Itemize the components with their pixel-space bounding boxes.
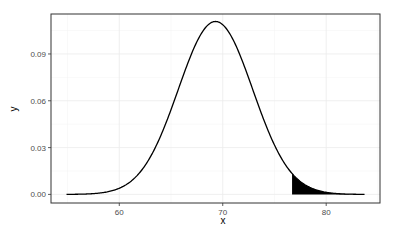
x-tick-label: 80 [322, 208, 331, 217]
panel-border [51, 14, 380, 203]
density-curve [67, 21, 365, 194]
x-axis-title: x [221, 215, 226, 226]
y-tick-label: 0.03 [30, 144, 46, 153]
y-tick-label: 0.09 [30, 50, 46, 59]
y-tick-label: 0.00 [30, 190, 46, 199]
chart: 607080 0.000.030.060.09 x y [0, 0, 399, 234]
y-tick-label: 0.06 [30, 97, 46, 106]
x-tick-label: 60 [115, 208, 124, 217]
gridlines [51, 14, 380, 203]
y-axis-title: y [8, 107, 19, 112]
y-axis: 0.000.030.060.09 [30, 50, 51, 199]
